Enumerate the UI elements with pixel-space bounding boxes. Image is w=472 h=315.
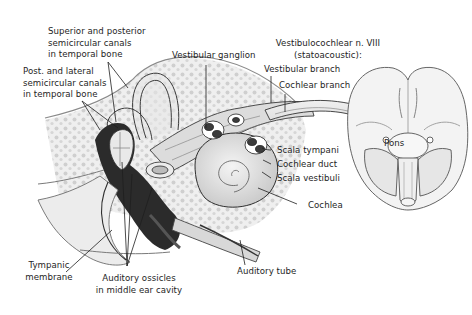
label-line: semicircular canals [23,78,107,90]
label-line: Tympanic [20,259,78,271]
brain-inferior-view [348,67,468,210]
label-line: semicircular canals [48,38,146,50]
label-vestibular-branch: Vestibular branch [264,64,340,75]
label-line: Post. and lateral [23,66,107,78]
label-line: Auditory ossicles [94,272,184,284]
label-vestibulocochlear-nerve: Vestibulocochlear n. VIII (statoacoustic… [258,38,398,61]
label-line: in middle ear cavity [94,284,184,296]
label-line: membrane [20,271,78,283]
label-vestibular-ganglion: Vestibular ganglion [172,50,256,61]
label-cochlea: Cochlea [308,200,343,211]
label-line: in temporal bone [23,89,107,101]
label-auditory-tube: Auditory tube [237,266,296,277]
label-posterior-lateral-canals: Post. and lateral semicircular canals in… [23,66,107,101]
label-line: Vestibulocochlear n. VIII [258,38,398,50]
label-cochlear-duct: Cochlear duct [277,159,337,170]
label-superior-posterior-canals: Superior and posterior semicircular cana… [48,26,146,61]
label-line: in temporal bone [48,49,146,61]
label-tympanic-membrane: Tympanic membrane [20,259,78,283]
label-pons: Pons [384,138,404,149]
label-line: Superior and posterior [48,26,146,38]
tympanic-membrane [38,176,130,265]
label-auditory-ossicles: Auditory ossicles in middle ear cavity [94,272,184,296]
label-scala-vestibuli: Scala vestibuli [277,173,340,184]
label-line: (statoacoustic): [258,50,398,62]
label-cochlear-branch: Cochlear branch [279,80,350,91]
label-scala-tympani: Scala tympani [277,145,339,156]
